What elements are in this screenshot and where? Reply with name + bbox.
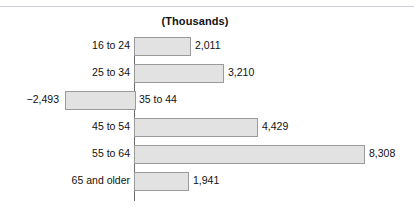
value-label: 4,429 <box>262 120 288 133</box>
bar-row: 35 to 44−2,493 <box>0 87 414 114</box>
category-label: 35 to 44 <box>139 93 177 106</box>
category-label: 16 to 24 <box>92 39 130 52</box>
bar-row: 45 to 544,429 <box>0 114 414 141</box>
chart-title: (Thousands) <box>0 15 414 27</box>
category-label: 25 to 34 <box>92 66 130 79</box>
category-label: 65 and older <box>72 174 130 187</box>
top-divider-rule <box>0 6 414 7</box>
bar-16-to-24[interactable] <box>134 37 191 56</box>
cropped-header-ghost-text <box>0 0 414 5</box>
bar-row: 16 to 242,011 <box>0 33 414 60</box>
value-label: 8,308 <box>369 147 395 160</box>
bar-35-to-44[interactable] <box>65 91 136 110</box>
category-label: 55 to 64 <box>92 147 130 160</box>
bar-25-to-34[interactable] <box>134 64 224 83</box>
bar-row: 65 and older1,941 <box>0 168 414 195</box>
value-label: −2,493 <box>27 93 59 106</box>
chart-figure: (Thousands) 16 to 242,01125 to 343,21035… <box>0 0 414 212</box>
value-label: 2,011 <box>195 39 221 52</box>
bar-row: 25 to 343,210 <box>0 60 414 87</box>
value-label: 1,941 <box>193 174 219 187</box>
category-label: 45 to 54 <box>92 120 130 133</box>
bar-row: 55 to 648,308 <box>0 141 414 168</box>
bar-55-to-64[interactable] <box>134 145 365 164</box>
bar-65-and-older[interactable] <box>134 172 189 191</box>
plot-area: 16 to 242,01125 to 343,21035 to 44−2,493… <box>0 33 414 203</box>
bar-45-to-54[interactable] <box>134 118 258 137</box>
value-label: 3,210 <box>228 66 254 79</box>
